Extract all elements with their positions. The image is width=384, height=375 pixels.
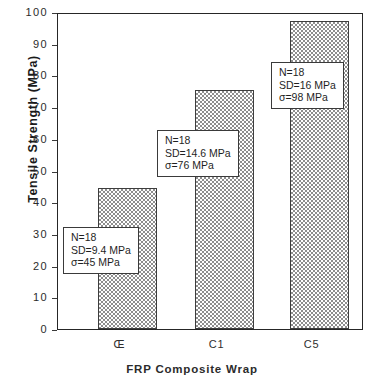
annotation-sigma: σ=98 MPa — [279, 91, 336, 104]
x-axis-title: FRP Composite Wrap — [0, 363, 384, 375]
annotation-n: N=18 — [279, 66, 336, 79]
y-tick-label: 80 — [33, 69, 48, 81]
y-tick-label: 10 — [33, 291, 48, 303]
x-tick-label-0: Œ — [87, 338, 152, 350]
y-tick-label: 30 — [33, 228, 48, 240]
annotation-sd: SD=14.6 MPa — [165, 147, 231, 160]
annotation-n: N=18 — [71, 231, 131, 244]
y-tick-label: 20 — [33, 260, 48, 272]
bar-category-1 — [195, 90, 254, 329]
y-tick-mark — [52, 330, 57, 331]
y-tick-label: 70 — [33, 101, 48, 113]
annotation-box-0: N=18 SD=9.4 MPa σ=45 MPa — [63, 227, 139, 274]
y-tick-label: 100 — [25, 6, 48, 18]
annotation-sd: SD=9.4 MPa — [71, 244, 131, 257]
y-tick-label: 50 — [33, 165, 48, 177]
annotation-box-1: N=18 SD=14.6 MPa σ=76 MPa — [157, 130, 239, 177]
annotation-sd: SD=16 MPa — [279, 79, 336, 92]
x-tick-label-2: C5 — [279, 338, 344, 350]
y-tick-label: 40 — [33, 196, 48, 208]
y-tick-label: 0 — [40, 323, 48, 335]
annotation-box-2: N=18 SD=16 MPa σ=98 MPa — [271, 62, 344, 109]
y-tick-label: 60 — [33, 133, 48, 145]
y-tick-label: 90 — [33, 38, 48, 50]
annotation-sigma: σ=45 MPa — [71, 256, 131, 269]
bar-chart-figure: Tensile Strength (MPa) 0 10 20 30 40 50 … — [0, 0, 384, 375]
annotation-sigma: σ=76 MPa — [165, 159, 231, 172]
x-tick-label-1: C1 — [184, 338, 249, 350]
annotation-n: N=18 — [165, 134, 231, 147]
